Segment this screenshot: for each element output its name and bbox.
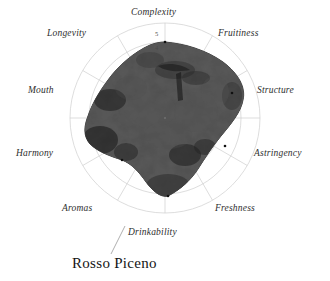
axis-label-longevity: Longevity [47, 29, 86, 39]
radar-chart: Complexity Fruitiness Structure Astringe… [0, 0, 330, 281]
axis-label-drinkability: Drinkability [128, 228, 177, 238]
axis-label-mouth: Mouth [28, 86, 54, 96]
radar-chart-canvas [0, 0, 330, 281]
radial-tick-4: 4 [155, 45, 158, 52]
axis-label-harmony: Harmony [16, 149, 53, 159]
chart-title: Rosso Piceno [72, 256, 157, 271]
axis-label-fruitiness: Fruitiness [218, 29, 259, 39]
axis-label-aromas: Aromas [62, 204, 92, 214]
radar-data-polygon [70, 30, 260, 210]
axis-label-astringency: Astringency [254, 149, 302, 159]
drinkability-leader-line [111, 226, 125, 254]
radial-tick-5: 5 [155, 31, 158, 38]
axis-label-structure: Structure [257, 86, 294, 96]
axis-label-complexity: Complexity [131, 8, 176, 18]
axis-label-freshness: Freshness [215, 204, 255, 214]
